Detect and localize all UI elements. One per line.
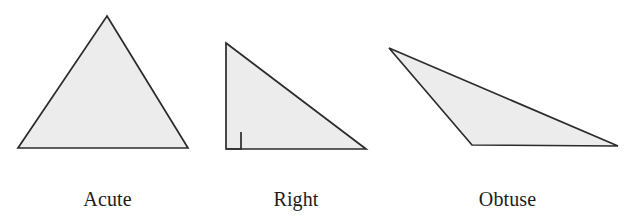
- right-triangle-caption: Right triangle: [216, 162, 376, 224]
- obtuse-triangle-caption: Obtuse triangle: [425, 162, 590, 224]
- right-caption-line-1: Right: [216, 187, 376, 212]
- acute-triangle-shape: [18, 16, 188, 148]
- triangle-classification-figure: Acute triangle Right triangle Obtuse tri…: [0, 0, 629, 224]
- obtuse-caption-line-1: Obtuse: [425, 187, 590, 212]
- acute-triangle-caption: Acute triangle: [25, 162, 190, 224]
- right-triangle-shape: [226, 43, 366, 149]
- obtuse-triangle-shape: [389, 48, 618, 146]
- acute-caption-line-1: Acute: [25, 187, 190, 212]
